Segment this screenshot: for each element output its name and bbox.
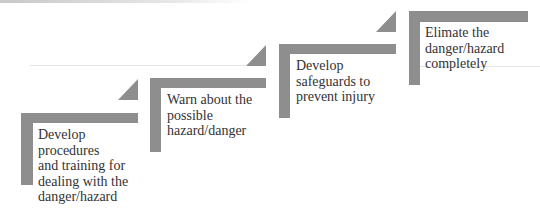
step-2-top-bar: [150, 78, 266, 88]
step-1-line: dealing with the: [38, 174, 128, 190]
step-2-arrow-triangle: [246, 45, 266, 66]
step-3-text: Develop safeguards to prevent injury: [296, 58, 375, 105]
step-2-line: hazard/danger: [167, 123, 252, 139]
step-1-line: procedures: [38, 143, 128, 159]
step-2-line: possible: [167, 108, 252, 124]
step-4-line: Elimate the: [425, 25, 504, 41]
step-4-side-bar: [409, 11, 420, 85]
step-1-text: Develop procedures and training for deal…: [38, 127, 128, 205]
step-1-arrow-triangle: [118, 79, 138, 100]
step-3-line: Develop: [296, 58, 375, 74]
step-1-side-bar: [21, 113, 33, 185]
step-1-line: danger/hazard: [38, 189, 128, 205]
step-2-line: Warn about the: [167, 92, 252, 108]
step-4-line: completely: [425, 56, 504, 72]
step-2-side-bar: [150, 78, 161, 152]
step-2-text: Warn about the possible hazard/danger: [167, 92, 252, 139]
step-4-text: Elimate the danger/hazard completely: [425, 25, 504, 72]
guide-line-left: [30, 65, 245, 66]
step-3-top-bar: [279, 44, 396, 54]
step-4-top-bar: [409, 11, 528, 22]
step-3-side-bar: [279, 44, 290, 118]
step-1-top-bar: [21, 113, 138, 123]
step-1-line: Develop: [38, 127, 128, 143]
step-4-line: danger/hazard: [425, 41, 504, 57]
header-fragment: [0, 0, 250, 3]
step-1-line: and training for: [38, 158, 128, 174]
step-3-line: prevent injury: [296, 89, 375, 105]
step-3-line: safeguards to: [296, 74, 375, 90]
step-3-arrow-triangle: [376, 11, 396, 32]
